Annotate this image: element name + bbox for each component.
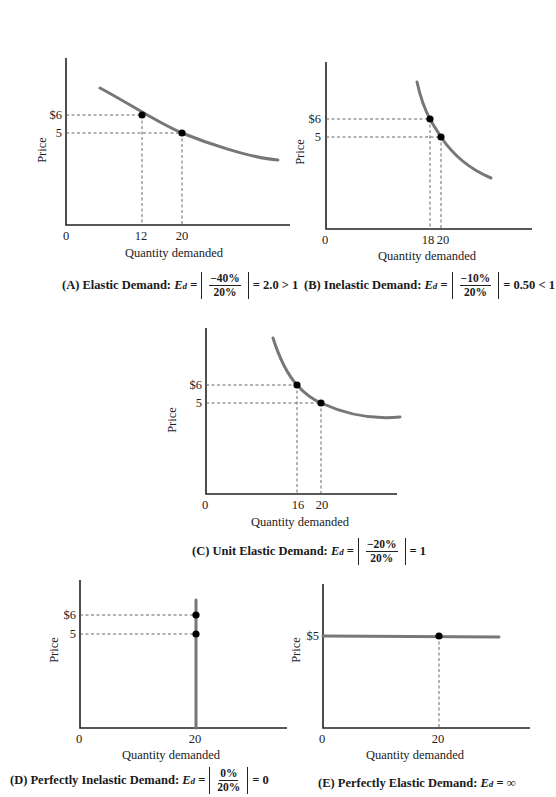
chart-e-result: = ∞ [496,776,515,791]
chart-b-axes [326,62,532,229]
chart-d-point-1 [192,611,199,618]
chart-b-guides [326,119,441,229]
chart-a-caption: (A) Elastic Demand: Ed = −40% 20% = 2.0 … [62,272,298,299]
chart-b-ytick-1: $6 [309,112,322,126]
chart-e-xtick-1: 20 [432,732,445,746]
chart-c-ylabel: Price [165,407,179,433]
chart-d-guides [80,615,196,634]
chart-a-ylabel: Price [35,137,49,163]
chart-a-ytick-2: 5 [56,126,62,140]
chart-c-xtick-2: 20 [316,498,329,512]
chart-c-axes [206,328,397,494]
chart-b-xlabel: Quantity demanded [378,249,477,263]
chart-d-title: (D) Perfectly Inelastic Demand [10,773,175,788]
chart-a-xtick-0: 0 [63,229,69,243]
chart-a-xtick-2: 20 [176,229,189,243]
chart-c-fraction: −20% 20% [358,538,406,565]
chart-e-caption: (E) Perfectly Elastic Demand: Ed = ∞ [318,776,516,791]
chart-b-xtick-0: 0 [322,233,328,247]
chart-b-xtick-2: 20 [437,233,450,247]
chart-b-point-2 [437,133,444,140]
chart-b-demand-curve [417,82,491,178]
chart-b-result: = 0.50 < 1 [503,278,555,293]
chart-e-point-1 [435,632,442,639]
elasticity-figure: .ax { stroke: #222; stroke-width: 1.6; f… [0,0,556,797]
chart-a-demand-curve [100,88,278,160]
chart-a-fraction: −40% 20% [201,272,249,299]
chart-d-caption: (D) Perfectly Inelastic Demand: Ed = 0% … [10,767,269,794]
chart-d-ytick-2: 5 [70,627,76,641]
chart-b-fraction: −10% 20% [452,272,500,299]
chart-e-xlabel: Quantity demanded [366,748,465,762]
chart-d-xtick-0: 0 [76,732,82,746]
chart-c-xtick-0: 0 [202,498,208,512]
chart-c-demand-curve [273,338,400,418]
chart-c-title: (C) Unit Elastic Demand [192,544,324,559]
chart-b-caption: (B) Inelastic Demand: Ed = −10% 20% = 0.… [304,272,555,299]
chart-a-guides [66,115,182,225]
chart-d-xlabel: Quantity demanded [122,748,221,762]
chart-e-ylabel: Price [289,637,303,663]
chart-a-title: (A) Elastic Demand [62,278,167,293]
chart-b-point-1 [426,115,433,122]
chart-c-xtick-1: 16 [292,498,305,512]
chart-d-axes [80,580,287,728]
chart-e-perfectly-elastic: $5 0 20 Quantity demanded Price [289,584,530,762]
chart-c-result: = 1 [410,544,427,559]
chart-b-ylabel: Price [293,139,307,165]
chart-e-axes [323,584,530,728]
chart-a-point-1 [138,111,145,118]
chart-c-ytick-1: $6 [190,378,203,392]
chart-e-ytick-1: $5 [307,629,320,643]
chart-d-ylabel: Price [47,637,61,663]
chart-d-result: = 0 [252,773,269,788]
chart-b-title: (B) Inelastic Demand [304,278,417,293]
chart-b-ytick-2: 5 [315,130,321,144]
chart-c-unit-elastic: $6 5 0 16 20 Quantity demanded Price [165,328,400,529]
chart-d-point-2 [192,630,199,637]
chart-c-point-2 [317,399,324,406]
chart-b-inelastic: $6 5 0 18 20 Quantity demanded Price [293,62,532,263]
chart-c-guides [206,385,321,494]
chart-c-xlabel: Quantity demanded [251,515,350,529]
chart-d-perfectly-inelastic: $6 5 0 20 Quantity demanded Price [47,580,287,762]
chart-b-xtick-1: 18 [422,233,435,247]
chart-a-result: = 2.0 > 1 [253,278,299,293]
chart-e-demand-curve [323,636,499,637]
chart-c-point-1 [293,381,300,388]
chart-a-xlabel: Quantity demanded [125,246,224,260]
chart-d-fraction: 0% 20% [209,767,248,794]
chart-a-axes [66,58,290,225]
chart-a-elastic: $6 5 0 12 20 Quantity demanded Price [35,58,290,260]
chart-d-xtick-1: 20 [189,732,202,746]
chart-e-title: (E) Perfectly Elastic Demand [318,776,473,791]
chart-c-ytick-2: 5 [196,396,202,410]
chart-a-point-2 [178,129,185,136]
chart-d-ytick-1: $6 [64,608,77,622]
chart-e-xtick-0: 0 [319,732,325,746]
chart-c-caption: (C) Unit Elastic Demand: Ed = −20% 20% =… [192,538,426,565]
chart-a-ytick-1: $6 [50,108,63,122]
chart-a-xtick-1: 12 [135,229,148,243]
